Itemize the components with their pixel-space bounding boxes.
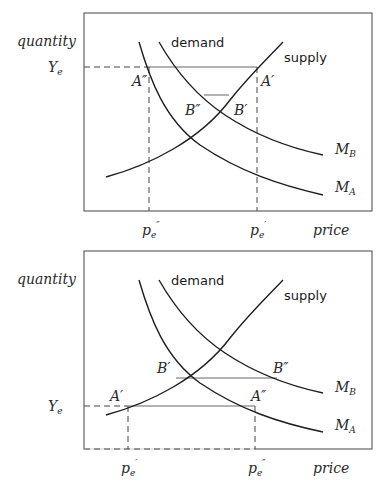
bottom-pe-prime-tick: pe′ [121, 458, 137, 478]
bottom-point-b-double-prime: B″ [272, 360, 289, 376]
top-panel: quantity Ye demand supply A″ A′ B″ B′ MB… [17, 13, 372, 240]
top-plot-frame [84, 13, 372, 211]
bottom-mb-label: MB [334, 379, 356, 397]
bottom-supply-label: supply [284, 288, 327, 303]
top-point-b-prime: B′ [233, 102, 248, 118]
supply-demand-diagrams: quantity Ye demand supply A″ A′ B″ B′ MB… [0, 0, 386, 492]
top-supply-label: supply [284, 50, 327, 65]
bottom-panel: quantity Ye demand supply A′ A″ B′ B″ MB… [17, 251, 372, 478]
top-quantity-label: quantity [17, 33, 77, 49]
bottom-quantity-label: quantity [17, 271, 77, 287]
top-mb-label: MB [334, 141, 356, 159]
bottom-ma-label: MA [334, 417, 356, 435]
top-demand-label: demand [171, 35, 224, 50]
bottom-plot-frame [84, 251, 372, 449]
bottom-demand-label: demand [171, 273, 224, 288]
bottom-ye-label: Ye [48, 398, 63, 416]
bottom-point-a-double-prime: A″ [249, 388, 267, 404]
top-point-b-double-prime: B″ [184, 102, 201, 118]
top-pe-double-prime-tick: pe″ [142, 220, 160, 240]
top-pe-prime-tick: pe′ [250, 220, 266, 240]
top-point-a-prime: A′ [259, 73, 275, 89]
bottom-point-a-prime: A′ [108, 388, 124, 404]
top-point-a-double-prime: A″ [130, 73, 148, 89]
top-ye-label: Ye [48, 59, 63, 77]
bottom-price-label: price [313, 460, 349, 476]
bottom-pe-double-prime-tick: pe″ [248, 458, 266, 478]
bottom-point-b-prime: B′ [156, 360, 171, 376]
top-ma-label: MA [334, 179, 356, 197]
top-price-label: price [313, 222, 349, 238]
